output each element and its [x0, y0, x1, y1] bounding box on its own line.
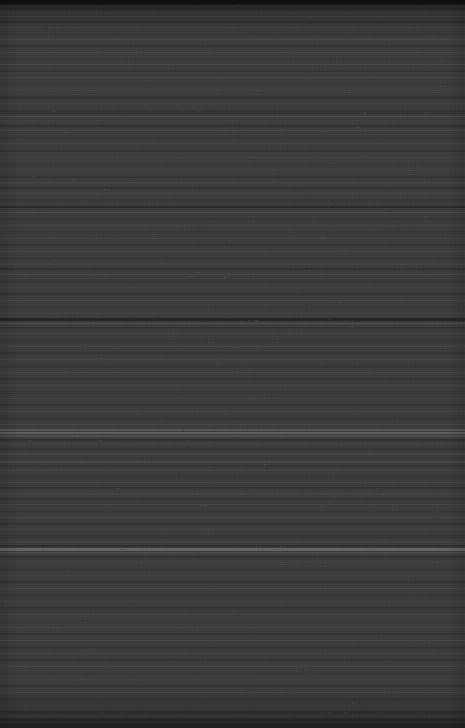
noise-speck — [458, 446, 459, 447]
scanline-band — [0, 607, 465, 609]
scanline-band — [0, 439, 465, 441]
noise-speck — [395, 321, 396, 322]
scanline-band — [0, 679, 465, 680]
noise-speck — [10, 218, 11, 219]
noise-speck — [54, 260, 56, 261]
noise-speck — [137, 546, 138, 547]
noise-speck — [457, 319, 458, 320]
noise-speck — [317, 111, 318, 112]
noise-speck — [280, 149, 281, 150]
noise-speck — [306, 150, 307, 151]
noise-speck — [17, 440, 18, 441]
noise-speck — [455, 320, 456, 321]
noise-speck — [192, 191, 193, 192]
noise-speck — [102, 50, 103, 51]
noise-speck — [152, 689, 154, 690]
noise-speck — [184, 9, 185, 10]
edge-vignette — [0, 0, 465, 728]
noise-speck — [360, 704, 361, 705]
scanline-band — [0, 263, 465, 265]
noise-speck — [411, 546, 412, 547]
noise-speck — [207, 458, 208, 459]
noise-speck — [326, 131, 327, 132]
noise-speck — [53, 627, 54, 628]
noise-speck — [460, 322, 462, 323]
noise-speck — [389, 61, 390, 62]
scanline-band — [0, 517, 465, 518]
noise-speck — [430, 597, 431, 598]
noise-speck — [254, 383, 256, 384]
scanline-band — [0, 493, 465, 495]
noise-speck — [161, 263, 162, 264]
speckle-noise-layer — [0, 0, 465, 728]
noise-speck — [445, 440, 446, 441]
noise-speck — [319, 327, 320, 328]
noise-speck — [4, 561, 5, 562]
noise-speck — [193, 431, 195, 432]
noise-speck — [30, 668, 31, 669]
noise-speck — [54, 237, 56, 238]
noise-speck — [219, 129, 220, 130]
noise-speck — [298, 191, 299, 192]
noise-speck — [143, 718, 144, 719]
noise-speck — [85, 430, 86, 431]
noise-speck — [73, 179, 75, 180]
noise-speck — [359, 414, 360, 415]
noise-speck — [331, 200, 333, 201]
noise-speck — [48, 514, 49, 515]
noise-speck — [299, 268, 300, 269]
scanline-band — [0, 692, 465, 693]
scanline-band — [0, 287, 465, 288]
scanline-band — [0, 666, 465, 667]
noise-speck — [323, 494, 324, 495]
noise-speck — [187, 446, 188, 447]
noise-speck — [427, 112, 428, 113]
scanline-band — [0, 58, 465, 61]
noise-speck — [58, 466, 59, 467]
noise-speck — [47, 433, 48, 434]
noise-speck — [337, 442, 338, 443]
noise-speck — [262, 549, 263, 550]
noise-speck — [16, 435, 17, 436]
noise-speck — [379, 98, 380, 99]
noise-speck — [146, 321, 147, 322]
noise-speck — [201, 546, 202, 547]
noise-speck — [144, 712, 145, 713]
noise-speck — [84, 616, 86, 617]
noise-speck — [160, 9, 161, 10]
noise-speck — [347, 11, 349, 12]
noise-speck — [282, 688, 283, 689]
scanline-band — [0, 487, 465, 489]
scanline-band — [0, 280, 465, 283]
noise-speck — [291, 546, 292, 547]
noise-speck — [149, 207, 150, 208]
noise-speck — [236, 418, 237, 419]
noise-speck — [18, 396, 19, 397]
noise-speck — [54, 88, 55, 89]
noise-speck — [275, 546, 276, 547]
noise-speck — [343, 253, 345, 254]
noise-speck — [220, 654, 221, 655]
noise-speck — [369, 39, 370, 40]
noise-speck — [216, 207, 217, 208]
noise-speck — [427, 66, 428, 67]
noise-speck — [209, 587, 210, 588]
noise-speck — [292, 190, 294, 191]
noise-speck — [274, 320, 275, 321]
noise-speck — [38, 208, 40, 209]
noise-speck — [363, 156, 364, 157]
noise-speck — [112, 446, 113, 447]
noise-speck — [240, 424, 241, 425]
noise-speck — [184, 230, 185, 231]
noise-speck — [118, 268, 119, 269]
noise-speck — [119, 58, 121, 59]
scanline-band — [0, 627, 465, 628]
noise-speck — [64, 371, 65, 372]
noise-speck — [380, 712, 381, 713]
noise-speck — [341, 440, 342, 441]
noise-speck — [437, 262, 439, 263]
scanline-band — [0, 498, 465, 500]
noise-speck — [15, 111, 17, 112]
noise-speck — [61, 207, 62, 208]
noise-speck — [5, 607, 6, 608]
